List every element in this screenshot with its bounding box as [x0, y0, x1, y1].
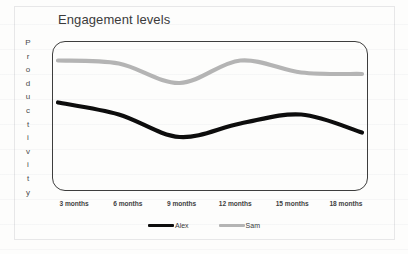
- series-lines: [52, 41, 368, 191]
- y-axis-letter: r: [21, 50, 35, 64]
- x-tick-label-6-months: 6 months: [113, 200, 142, 207]
- chart-title: Engagement levels: [58, 12, 170, 27]
- x-tick-label-15-months: 15 months: [276, 200, 309, 207]
- x-tick-label-9-months: 9 months: [167, 200, 196, 207]
- legend-label-alex: Alex: [175, 222, 189, 229]
- legend-item-alex[interactable]: Alex: [148, 222, 189, 229]
- y-axis-letter: P: [21, 36, 35, 50]
- legend-line-swatch-icon: [148, 224, 174, 227]
- legend-label-sam: Sam: [246, 222, 260, 229]
- x-tick-label-3-months: 3 months: [59, 200, 88, 207]
- engagement-levels-chart: Engagement levels P r o d u c t i v i t …: [0, 0, 408, 254]
- y-axis-letter: u: [21, 90, 35, 104]
- x-tick-label-18-months: 18 months: [329, 200, 362, 207]
- y-axis-letter: i: [21, 158, 35, 172]
- y-axis-letter: t: [21, 172, 35, 186]
- legend-line-swatch-icon: [219, 224, 245, 227]
- y-axis-letter: t: [21, 118, 35, 132]
- x-axis-tick-labels: 3 months 6 months 9 months 12 months 15 …: [52, 200, 368, 214]
- series-line-alex: [58, 103, 362, 138]
- series-line-sam: [58, 60, 362, 83]
- plot-area: [52, 41, 368, 191]
- y-axis-letter: y: [21, 186, 35, 200]
- legend-item-sam[interactable]: Sam: [219, 222, 260, 229]
- y-axis-letter: i: [21, 131, 35, 145]
- y-axis-letter: o: [21, 63, 35, 77]
- x-tick-label-12-months: 12 months: [219, 200, 252, 207]
- chart-legend: Alex Sam: [0, 222, 408, 229]
- y-axis-letter: d: [21, 77, 35, 91]
- y-axis-letter: c: [21, 104, 35, 118]
- y-axis-title: P r o d u c t i v i t y: [21, 36, 35, 199]
- y-axis-letter: v: [21, 145, 35, 159]
